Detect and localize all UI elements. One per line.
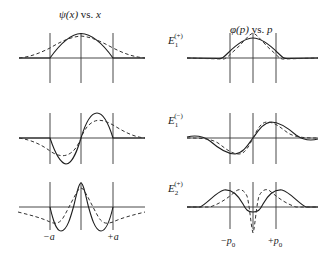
- energy-parity: (+): [174, 32, 183, 40]
- tick-neg-a: −a: [43, 232, 55, 242]
- energy-parity: (−): [174, 112, 183, 120]
- phi-plot-row-3: [187, 182, 318, 233]
- solid-curve: [187, 190, 318, 212]
- energy-subscript: 1: [175, 41, 179, 49]
- wavefunction-figure: ψ(x) vs. x φ(p) vs. p E1(+) E1(−) E2(+) …: [0, 0, 336, 256]
- x-variable-label: x: [96, 8, 101, 20]
- left-column-title: ψ(x) vs. x: [59, 9, 101, 20]
- energy-label-row-2: E1(−): [168, 114, 183, 129]
- psi-plot-row-1: [19, 33, 145, 83]
- psi-plot-row-3: [18, 182, 145, 231]
- tick-pos-p0: +p0: [268, 236, 282, 249]
- energy-parity: (+): [174, 180, 183, 188]
- solid-curve: [19, 34, 145, 59]
- vs-label: vs.: [249, 23, 267, 35]
- phi-plot-row-1: [187, 33, 318, 83]
- tick-pos-a: +a: [107, 232, 119, 242]
- solid-curve: [19, 113, 145, 164]
- dashed-curve: [18, 188, 145, 223]
- p-variable-label: p: [267, 23, 273, 35]
- psi-function-label: ψ(x): [59, 8, 78, 20]
- energy-label-row-1: E1(+): [168, 34, 183, 49]
- right-column-title: φ(p) vs. p: [230, 24, 272, 35]
- dashed-curve: [19, 36, 145, 58]
- dashed-curve: [187, 190, 318, 233]
- energy-subscript: 2: [175, 189, 179, 197]
- phi-plot-row-2: [187, 113, 318, 164]
- subscript-zero: 0: [279, 241, 283, 249]
- subscript-zero: 0: [232, 241, 236, 249]
- solid-curve: [187, 38, 318, 59]
- tick-neg-p0: −p0: [221, 236, 235, 249]
- energy-subscript: 1: [175, 121, 179, 129]
- dashed-curve: [187, 33, 318, 59]
- energy-label-row-3: E2(+): [168, 182, 183, 197]
- psi-plot-row-2: [19, 113, 145, 164]
- vs-label: vs.: [78, 8, 96, 20]
- phi-function-label: φ(p): [230, 23, 249, 35]
